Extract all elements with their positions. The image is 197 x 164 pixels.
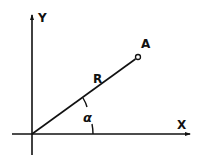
angle-arc (83, 98, 87, 107)
x-axis-label: X (177, 118, 187, 132)
point-a-marker (136, 55, 141, 60)
polar-diagram: Y X A R α (0, 0, 197, 164)
radius-label: R (93, 72, 102, 86)
point-a-label: A (141, 37, 151, 51)
angle-label: α (83, 110, 92, 125)
angle-arc-lower (92, 124, 93, 134)
y-axis-label: Y (37, 11, 47, 25)
